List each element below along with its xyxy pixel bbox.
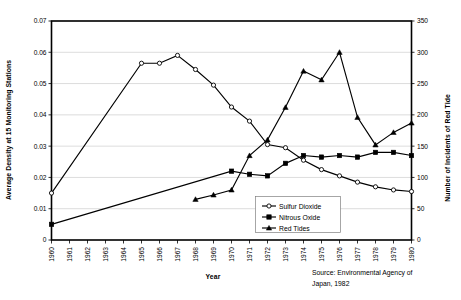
data-point [355, 155, 359, 159]
legend-label: Sulfur Dioxide [279, 203, 322, 210]
y-tick-label-right: 250 [417, 80, 428, 87]
y-tick-label-left: 0.05 [34, 80, 47, 87]
x-tick-label: 1966 [156, 247, 163, 262]
data-point [301, 153, 305, 157]
x-tick-label: 1961 [66, 247, 73, 262]
data-point [49, 191, 53, 195]
x-tick-label: 1979 [390, 247, 397, 262]
data-point [409, 153, 413, 157]
data-point [265, 142, 269, 146]
chart-container: 00.010.020.030.040.050.060.07 0501001502… [0, 0, 461, 300]
data-point [247, 119, 251, 123]
data-point [319, 155, 323, 159]
data-point [337, 174, 341, 178]
data-point [391, 188, 395, 192]
y-tick-label-left: 0.01 [34, 205, 47, 212]
y-tick-label-left: 0.06 [34, 49, 47, 56]
x-tick-label: 1968 [192, 247, 199, 262]
data-point [337, 153, 341, 157]
x-tick-label: 1971 [246, 247, 253, 262]
legend-label: Nitrous Oxide [279, 214, 320, 221]
data-point [355, 180, 359, 184]
x-tick-label: 1960 [48, 247, 55, 262]
y-axis-right-title: Number of Incidents of Red Tide [444, 94, 451, 202]
line-chart: 00.010.020.030.040.050.060.07 0501001502… [0, 0, 461, 300]
y-tick-label-right: 200 [417, 111, 428, 118]
x-tick-label: 1962 [84, 247, 91, 262]
legend-label: Red Tides [279, 225, 310, 232]
data-point [229, 105, 233, 109]
data-point [391, 150, 395, 154]
y-tick-label-right: 350 [417, 17, 428, 24]
x-tick-label: 1965 [138, 247, 145, 262]
data-point [373, 185, 377, 189]
y-tick-label-right: 300 [417, 49, 428, 56]
data-point [247, 172, 251, 176]
x-tick-label: 1969 [210, 247, 217, 262]
data-point [283, 161, 287, 165]
data-point [175, 53, 179, 57]
data-point [193, 67, 197, 71]
source-note-line1: Source: Environmental Agency of [312, 269, 413, 277]
chart-legend: Sulfur DioxideNitrous OxideRed Tides [256, 197, 341, 233]
y-tick-label-left: 0.02 [34, 174, 47, 181]
data-point [265, 174, 269, 178]
data-point [301, 158, 305, 162]
x-tick-label: 1974 [300, 247, 307, 262]
x-axis-title: Year [206, 273, 221, 280]
y-axis-left-title: Average Density at 15 Monitoring Station… [5, 60, 13, 200]
x-tick-label: 1964 [120, 247, 127, 262]
y-tick-label-left: 0.04 [34, 111, 47, 118]
data-point [373, 150, 377, 154]
data-point [319, 168, 323, 172]
legend-marker-filled-square [267, 215, 271, 219]
x-tick-label: 1972 [264, 247, 271, 262]
x-tick-label: 1977 [354, 247, 361, 262]
x-tick-label: 1963 [102, 247, 109, 262]
legend-item-nitrous-oxide[interactable]: Nitrous Oxide [262, 214, 320, 221]
x-tick-label: 1973 [282, 247, 289, 262]
y-tick-label-right: 0 [417, 236, 421, 243]
x-tick-label: 1970 [228, 247, 235, 262]
source-note-line2: Japan, 1982 [312, 280, 350, 288]
y-tick-label-left: 0 [43, 236, 47, 243]
y-tick-label-right: 150 [417, 143, 428, 150]
data-point [49, 222, 53, 226]
data-point [211, 83, 215, 87]
data-point [409, 189, 413, 193]
data-point [283, 146, 287, 150]
y-tick-label-right: 100 [417, 174, 428, 181]
x-tick-label: 1978 [372, 247, 379, 262]
y-tick-label-right: 50 [417, 205, 425, 212]
data-point [229, 169, 233, 173]
x-tick-label: 1980 [408, 247, 415, 262]
legend-marker-open-circle [267, 204, 271, 208]
x-tick-label: 1976 [336, 247, 343, 262]
x-tick-label: 1967 [174, 247, 181, 262]
x-tick-label: 1975 [318, 247, 325, 262]
data-point [139, 61, 143, 65]
y-tick-label-left: 0.03 [34, 143, 47, 150]
data-point [157, 61, 161, 65]
y-tick-label-left: 0.07 [34, 17, 47, 24]
